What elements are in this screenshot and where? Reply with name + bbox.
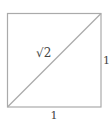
diagonal-label: √2 — [36, 46, 51, 60]
bottom-side-label: 1 — [51, 109, 58, 121]
square-diagonal-diagram: √2 1 1 — [0, 0, 111, 121]
diagonal-line — [8, 14, 102, 108]
right-side-label: 1 — [103, 54, 110, 67]
